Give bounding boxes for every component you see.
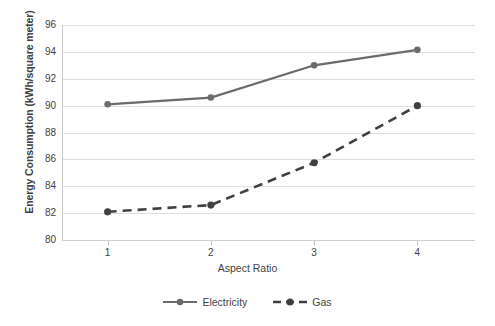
x-axis-title: Aspect Ratio (0, 262, 495, 274)
chart-legend: ElectricityGas (0, 296, 495, 308)
data-point-electricity (414, 47, 421, 54)
data-point-electricity (104, 101, 111, 108)
line-chart: Energy Consumption (kWh/square meter) 80… (0, 0, 495, 326)
legend-swatch-gas (273, 297, 307, 307)
data-point-gas (414, 102, 421, 109)
data-point-electricity (208, 94, 215, 101)
legend-label: Gas (312, 296, 331, 308)
series-plot (0, 0, 495, 326)
data-point-electricity (311, 62, 318, 69)
series-line-electricity (108, 50, 418, 104)
legend-item-gas[interactable]: Gas (273, 296, 331, 308)
data-point-gas (104, 208, 111, 215)
legend-label: Electricity (202, 296, 247, 308)
legend-item-electricity[interactable]: Electricity (163, 296, 247, 308)
legend-swatch-electricity (163, 297, 197, 307)
data-point-gas (207, 201, 214, 208)
data-point-gas (311, 159, 318, 166)
series-line-gas (108, 106, 418, 212)
